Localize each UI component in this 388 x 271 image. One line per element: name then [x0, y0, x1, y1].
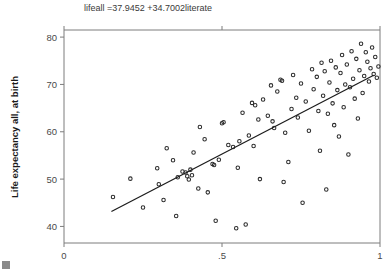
scatter-point [350, 50, 354, 54]
scatter-plot-figure: lifeall =37.9452 +34.7002literate 405060… [0, 0, 388, 271]
scatter-point [234, 227, 238, 231]
scatter-point [359, 42, 363, 46]
scatter-point [358, 68, 362, 72]
scatter-point [329, 59, 333, 63]
scatter-point [328, 81, 332, 85]
scatter-point [236, 166, 240, 170]
scatter-point [353, 97, 357, 101]
scatter-point [377, 65, 381, 69]
scatter-point [340, 53, 344, 57]
y-tick-label: 50 [46, 174, 57, 185]
scatter-point [244, 223, 248, 227]
scatter-point [334, 66, 338, 70]
scatter-point [307, 129, 311, 133]
scatter-point [271, 120, 275, 124]
scatter-points-layer [111, 42, 380, 230]
y-tick-label: 60 [46, 126, 57, 137]
x-tick-label: .5 [218, 250, 226, 261]
corner-artifact [2, 261, 10, 269]
scatter-point [367, 80, 371, 84]
scatter-point [337, 135, 341, 139]
scatter-point [238, 139, 242, 143]
scatter-point [339, 71, 343, 75]
scatter-point [282, 180, 286, 184]
x-tick-label: 0 [61, 250, 66, 261]
scatter-point [370, 46, 374, 50]
scatter-point [356, 117, 360, 121]
scatter-point [155, 166, 159, 170]
scatter-point [366, 60, 370, 64]
scatter-point [347, 153, 351, 157]
scatter-point [321, 94, 325, 98]
scatter-point [276, 90, 280, 94]
scatter-point [362, 74, 366, 78]
scatter-point [361, 91, 365, 95]
scatter-point [283, 131, 287, 135]
scatter-point [312, 87, 316, 91]
scatter-point [325, 188, 329, 192]
scatter-point [342, 105, 346, 109]
scatter-point [241, 111, 245, 115]
scatter-point [269, 84, 273, 88]
y-tick-label: 40 [46, 221, 57, 232]
scatter-point [174, 214, 178, 218]
scatter-point [198, 125, 202, 129]
scatter-point [351, 77, 355, 81]
scatter-point [290, 107, 294, 111]
scatter-point [206, 191, 210, 195]
scatter-point [369, 67, 373, 71]
scatter-point [247, 134, 251, 138]
scatter-point [227, 143, 231, 147]
scatter-point [336, 88, 340, 92]
scatter-point [345, 63, 349, 67]
scatter-point [331, 102, 335, 106]
regression-fit-line [111, 75, 373, 211]
scatter-point [141, 206, 145, 210]
x-axis-ticks: 0.51 [61, 26, 382, 261]
scatter-point [203, 138, 207, 142]
scatter-point [129, 177, 133, 181]
scatter-point [258, 177, 262, 181]
scatter-point [197, 187, 201, 191]
scatter-point [310, 68, 314, 72]
scatter-point [266, 114, 270, 118]
plot-title: lifeall =37.9452 +34.7002literate [84, 3, 212, 13]
scatter-point [355, 57, 359, 61]
scatter-point [296, 116, 300, 120]
scatter-point [295, 96, 299, 100]
scatter-point [318, 149, 322, 153]
scatter-point [257, 118, 261, 122]
scatter-point [299, 82, 303, 86]
scatter-point [364, 51, 368, 55]
y-tick-label: 70 [46, 79, 57, 90]
y-axis-label: Life expectancy all, at birth [9, 76, 20, 198]
scatter-point [165, 147, 169, 151]
scatter-point [187, 178, 191, 182]
scatter-point [171, 158, 175, 162]
scatter-point [192, 151, 196, 155]
y-tick-label: 80 [46, 32, 57, 43]
y-axis-ticks: 4050607080 [46, 32, 64, 232]
scatter-point [190, 174, 194, 178]
scatter-point [375, 76, 379, 80]
scatter-point [323, 69, 327, 73]
scatter-point [317, 109, 321, 113]
scatter-point [301, 201, 305, 205]
scatter-point [332, 123, 336, 127]
scatter-point [253, 104, 257, 108]
x-tick-label: 1 [377, 250, 382, 261]
scatter-point [261, 98, 265, 102]
scatter-point [291, 73, 295, 77]
scatter-point [374, 55, 378, 59]
scatter-point [217, 158, 221, 162]
scatter-point [315, 75, 319, 79]
scatter-point [111, 195, 115, 199]
scatter-point [287, 160, 291, 164]
scatter-point [343, 83, 347, 87]
scatter-point [326, 112, 330, 116]
scatter-point [320, 61, 324, 65]
scatter-point [162, 198, 166, 202]
scatter-point [252, 144, 256, 148]
scatter-point [304, 100, 308, 104]
scatter-point [214, 219, 218, 223]
